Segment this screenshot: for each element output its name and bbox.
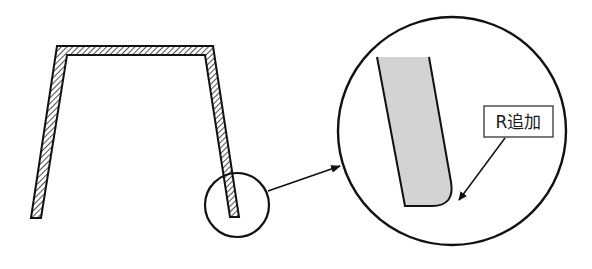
magnify-arrow (268, 166, 340, 191)
callout-text: R追加 (496, 112, 542, 132)
callout-label: R追加 (484, 106, 553, 137)
diagram-canvas: R追加 (0, 0, 592, 269)
